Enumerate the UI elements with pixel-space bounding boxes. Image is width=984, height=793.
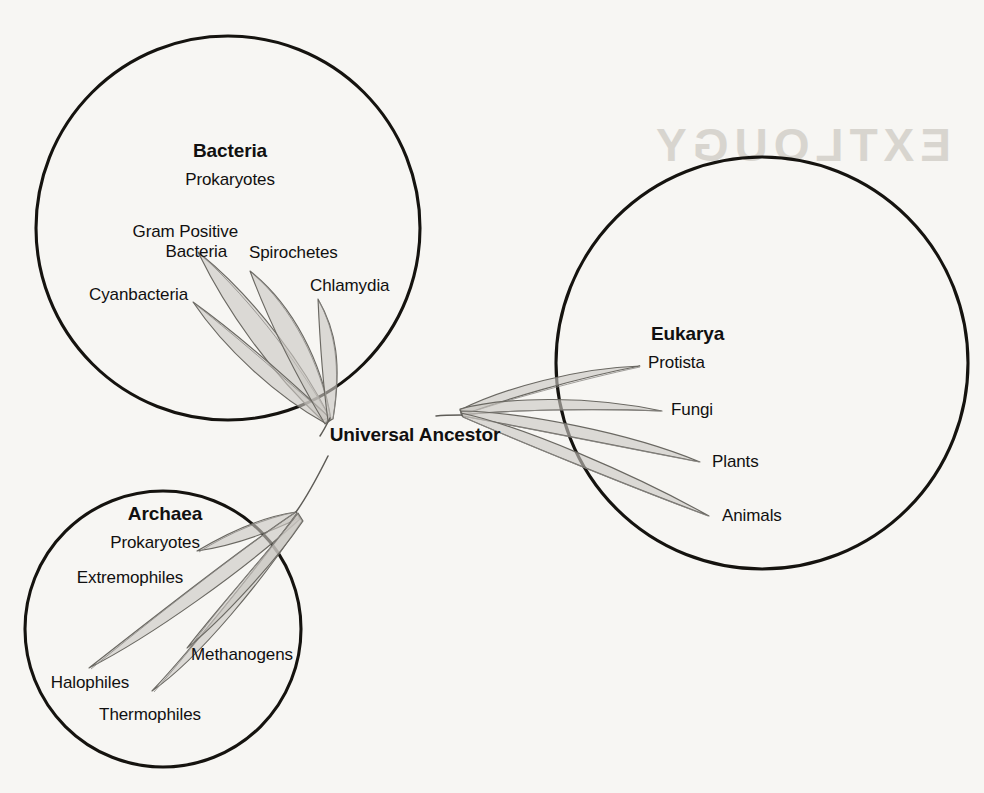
archaea-subtitle: Prokaryotes	[85, 533, 225, 553]
tree-of-life-diagram: EXTLOUGY	[0, 0, 984, 793]
methanogens-label: Methanogens	[191, 645, 293, 665]
plants-label: Plants	[712, 452, 759, 472]
protista-label: Protista	[648, 353, 705, 373]
spirochetes-label: Spirochetes	[249, 243, 338, 263]
gram-positive-bacteria-label-line1: Gram Positive	[30, 222, 238, 242]
halophiles-label: Halophiles	[20, 673, 160, 693]
chlamydia-label: Chlamydia	[310, 276, 389, 296]
archaea-root-stem	[296, 456, 328, 512]
fungi-label: Fungi	[671, 400, 713, 420]
eukarya-title: Eukarya	[651, 324, 724, 344]
cyanbacteria-label: Cyanbacteria	[10, 285, 188, 305]
gram-positive-bacteria-label-line2: Bacteria	[30, 242, 227, 262]
eukarya-root-stem	[436, 415, 462, 416]
bacteria-title: Bacteria	[150, 141, 310, 161]
extremophiles-label: Extremophiles	[55, 568, 205, 588]
universal-ancestor-label: Universal Ancestor	[300, 425, 530, 445]
archaea-title: Archaea	[95, 504, 235, 524]
animals-label: Animals	[722, 506, 782, 526]
bacteria-subtitle: Prokaryotes	[150, 170, 310, 190]
thermophiles-label: Thermophiles	[75, 705, 225, 725]
